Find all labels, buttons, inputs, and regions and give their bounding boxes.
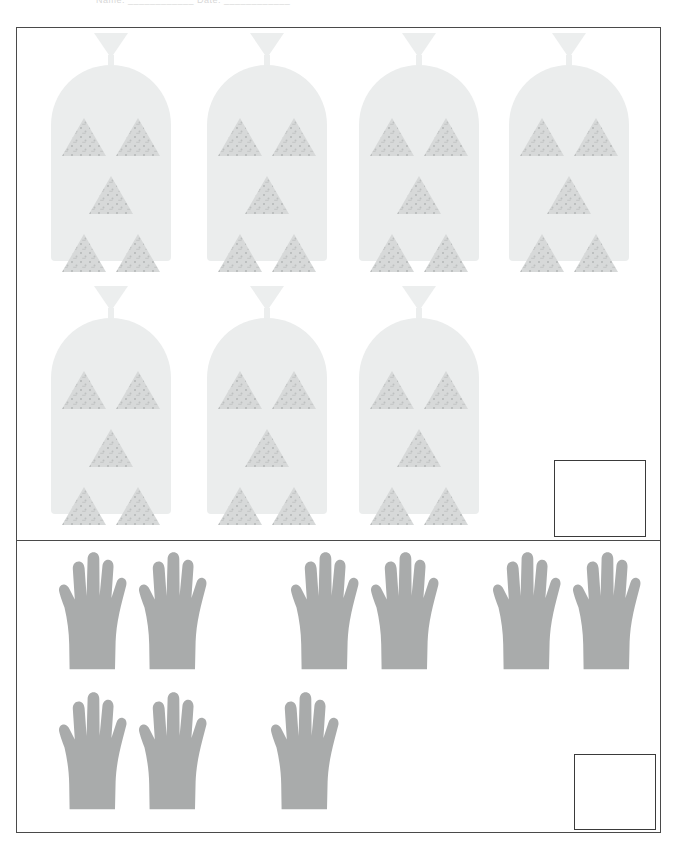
- triangle-chip-icon: [61, 370, 107, 410]
- hand-row: [17, 692, 660, 832]
- hand-icon: [135, 692, 209, 810]
- bag-icon: [203, 286, 331, 516]
- triangle-chip-icon: [217, 233, 263, 273]
- hand-glyph: [135, 692, 209, 810]
- triangle-chip-icon: [61, 486, 107, 526]
- hand-glyph: [489, 552, 563, 670]
- triangle-chip-glyph: [217, 370, 263, 410]
- triangle-chip-glyph: [369, 370, 415, 410]
- hand-glyph: [55, 692, 129, 810]
- triangle-chip-icon: [115, 117, 161, 157]
- triangle-chip-glyph: [271, 486, 317, 526]
- triangle-chip-icon: [546, 175, 592, 215]
- hand-icon: [287, 552, 361, 670]
- triangle-chip-icon: [423, 233, 469, 273]
- hand-glyph: [55, 552, 129, 670]
- triangle-chip-glyph: [519, 117, 565, 157]
- triangle-chip-icon: [519, 117, 565, 157]
- triangle-chip-glyph: [369, 117, 415, 157]
- triangle-chip-glyph: [115, 370, 161, 410]
- triangle-chip-icon: [88, 428, 134, 468]
- bag-icon: [47, 286, 175, 516]
- triangle-chip-glyph: [244, 428, 290, 468]
- triangle-chip-glyph: [423, 117, 469, 157]
- triangle-chip-icon: [244, 428, 290, 468]
- triangle-chip-icon: [217, 117, 263, 157]
- hand-icon: [55, 692, 129, 810]
- chip-grid: [207, 65, 327, 261]
- triangle-chip-glyph: [423, 370, 469, 410]
- triangle-chip-glyph: [573, 233, 619, 273]
- triangle-chip-icon: [396, 175, 442, 215]
- triangle-chip-glyph: [423, 233, 469, 273]
- hand-icon: [489, 552, 563, 670]
- chip-grid: [51, 318, 171, 514]
- triangle-chip-icon: [369, 233, 415, 273]
- triangle-chip-glyph: [115, 117, 161, 157]
- triangle-chip-icon: [271, 486, 317, 526]
- section-hands: [17, 540, 660, 832]
- triangle-chip-glyph: [271, 370, 317, 410]
- bag-row: [17, 33, 660, 273]
- hand-glyph: [367, 552, 441, 670]
- bag-icon: [505, 33, 633, 263]
- triangle-chip-icon: [423, 370, 469, 410]
- triangle-chip-glyph: [369, 486, 415, 526]
- bag-body: [207, 65, 327, 261]
- triangle-chip-glyph: [217, 117, 263, 157]
- answer-box-hands[interactable]: [574, 754, 656, 830]
- triangle-chip-glyph: [61, 233, 107, 273]
- triangle-chip-glyph: [423, 486, 469, 526]
- triangle-chip-icon: [271, 233, 317, 273]
- triangle-chip-icon: [369, 117, 415, 157]
- triangle-chip-glyph: [115, 486, 161, 526]
- hand-glyph: [267, 692, 341, 810]
- triangle-chip-glyph: [519, 233, 565, 273]
- hand-icon: [135, 552, 209, 670]
- chip-grid: [207, 318, 327, 514]
- hand-icon: [267, 692, 341, 810]
- bag-body: [509, 65, 629, 261]
- triangle-chip-glyph: [217, 233, 263, 273]
- hand-glyph: [569, 552, 643, 670]
- triangle-chip-glyph: [61, 486, 107, 526]
- hand-icon: [367, 552, 441, 670]
- bag-body: [51, 318, 171, 514]
- chip-grid: [359, 318, 479, 514]
- triangle-chip-icon: [61, 233, 107, 273]
- bag-body: [207, 318, 327, 514]
- triangle-chip-glyph: [61, 117, 107, 157]
- triangle-chip-glyph: [271, 233, 317, 273]
- worksheet-frame: [16, 27, 661, 833]
- triangle-chip-glyph: [546, 175, 592, 215]
- bag-body: [359, 318, 479, 514]
- bag-icon: [203, 33, 331, 263]
- triangle-chip-icon: [244, 175, 290, 215]
- triangle-chip-icon: [61, 117, 107, 157]
- triangle-chip-icon: [115, 486, 161, 526]
- triangle-chip-icon: [88, 175, 134, 215]
- triangle-chip-icon: [369, 370, 415, 410]
- triangle-chip-glyph: [88, 428, 134, 468]
- bag-body: [51, 65, 171, 261]
- section-bags: [17, 28, 660, 540]
- answer-box-bags[interactable]: [554, 460, 646, 537]
- hand-icon: [55, 552, 129, 670]
- hand-row: [17, 552, 660, 692]
- worksheet-header-text: Name: ____________ Date: ____________: [96, 0, 396, 7]
- triangle-chip-glyph: [573, 117, 619, 157]
- chip-grid: [359, 65, 479, 261]
- triangle-chip-glyph: [271, 117, 317, 157]
- triangle-chip-icon: [217, 486, 263, 526]
- triangle-chip-icon: [423, 486, 469, 526]
- hand-glyph: [287, 552, 361, 670]
- triangle-chip-icon: [573, 117, 619, 157]
- triangle-chip-icon: [573, 233, 619, 273]
- triangle-chip-glyph: [217, 486, 263, 526]
- triangle-chip-icon: [115, 370, 161, 410]
- triangle-chip-glyph: [88, 175, 134, 215]
- triangle-chip-glyph: [396, 175, 442, 215]
- bag-icon: [47, 33, 175, 263]
- triangle-chip-icon: [423, 117, 469, 157]
- chip-grid: [51, 65, 171, 261]
